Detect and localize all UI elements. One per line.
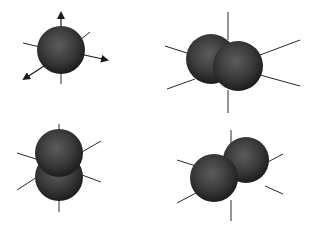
axis-line: [17, 177, 37, 190]
axis-line: [260, 75, 300, 86]
panel-two-spheres-horizontal: [165, 12, 300, 113]
panel-two-spheres-diagonal: [177, 130, 283, 221]
axis-line: [165, 46, 190, 54]
sphere-front: [190, 154, 238, 202]
panel-two-spheres-vertical: [17, 124, 101, 212]
axis-line: [177, 160, 196, 166]
arrow-right-icon: [80, 54, 107, 60]
sphere-front: [213, 41, 263, 91]
axis-line: [167, 79, 195, 89]
axis-line: [82, 141, 101, 152]
axis-line: [265, 186, 283, 194]
axis-line: [82, 175, 101, 182]
panel-single-sphere: [23, 13, 107, 84]
sphere: [37, 26, 85, 74]
sphere-top: [35, 129, 83, 177]
arrow-down-left-icon: [24, 66, 44, 79]
axis-line: [177, 193, 196, 203]
orbital-diagram: [0, 0, 311, 234]
axis-line: [260, 40, 300, 55]
axis-line: [17, 153, 36, 159]
